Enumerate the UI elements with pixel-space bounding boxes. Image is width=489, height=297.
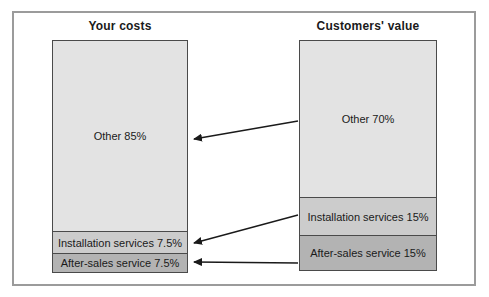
your-costs-after-sales-label: After-sales service 7.5% (61, 257, 180, 269)
customers-value-installation-segment: Installation services 15% (300, 197, 436, 235)
left-bar-title: Your costs (52, 19, 188, 33)
your-costs-other-segment: Other 85% (53, 41, 187, 231)
customers-value-bar: Other 70% Installation services 15% Afte… (299, 40, 437, 271)
your-costs-bar: Other 85% Installation services 7.5% Aft… (52, 40, 188, 273)
customers-value-other-label: Other 70% (342, 113, 395, 125)
customers-value-after-sales-segment: After-sales service 15% (300, 235, 436, 270)
your-costs-installation-label: Installation services 7.5% (58, 237, 182, 249)
your-costs-installation-segment: Installation services 7.5% (53, 231, 187, 253)
your-costs-after-sales-segment: After-sales service 7.5% (53, 253, 187, 272)
customers-value-other-segment: Other 70% (300, 41, 436, 197)
customers-value-after-sales-label: After-sales service 15% (310, 247, 426, 259)
right-bar-title: Customers' value (299, 19, 437, 33)
your-costs-other-label: Other 85% (94, 130, 147, 142)
customers-value-installation-label: Installation services 15% (307, 211, 428, 223)
figure-canvas: Your costs Customers' value Other 85% In… (0, 0, 489, 297)
